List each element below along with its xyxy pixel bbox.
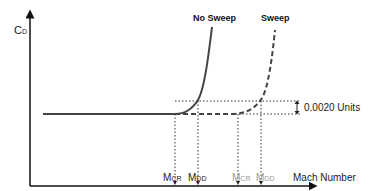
tick-mcr-no-sweep: MCR (163, 173, 181, 183)
legend-no-sweep: No Sweep (193, 14, 236, 23)
delta-annotation: 0.0020 Units (304, 103, 360, 113)
legend-sweep: Sweep (261, 14, 290, 23)
y-axis-label: CD (14, 25, 27, 36)
tick-mdd-sweep: MDD (256, 173, 274, 183)
tick-mcr-sweep: MCR (232, 173, 250, 183)
chart-canvas (0, 0, 379, 191)
x-axis-label: Mach Number (293, 173, 356, 183)
tick-mdd-no-sweep: MDD (188, 173, 206, 183)
